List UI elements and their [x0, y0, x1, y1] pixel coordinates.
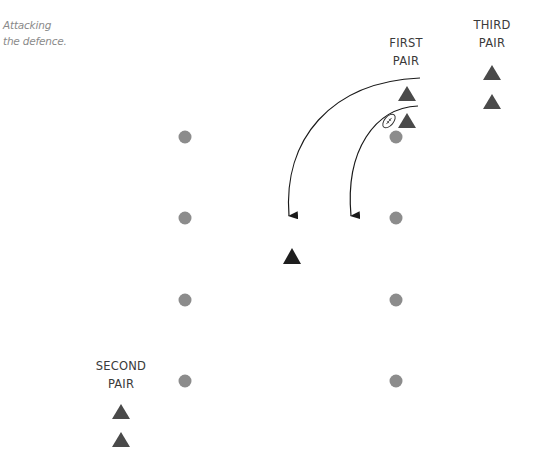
- second-pair-player-1-icon: [112, 404, 130, 419]
- cone-icon: [390, 131, 403, 144]
- cone-icon: [179, 375, 192, 388]
- cone-icon: [390, 294, 403, 307]
- cone-icon: [179, 131, 192, 144]
- second-pair-player-2-icon: [112, 432, 130, 447]
- first-pair-player-1-icon: [398, 86, 416, 101]
- cone-icon: [390, 375, 403, 388]
- defender-icon: [283, 248, 301, 264]
- cone-icon: [179, 294, 192, 307]
- cone-icon: [390, 212, 403, 225]
- third-pair-player-1-icon: [483, 65, 501, 80]
- first-pair-player-2-icon: [398, 113, 416, 128]
- rugby-ball-icon: [380, 112, 397, 130]
- pitch-diagram: [0, 0, 537, 458]
- third-pair-player-2-icon: [483, 94, 501, 109]
- cone-icon: [179, 212, 192, 225]
